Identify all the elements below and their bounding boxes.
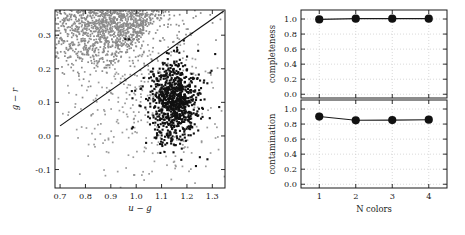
scatter-point-selected xyxy=(199,80,201,82)
scatter-point-background xyxy=(112,4,114,6)
scatter-point-background xyxy=(112,42,114,44)
data-point-marker xyxy=(315,15,323,23)
scatter-point-selected xyxy=(156,132,158,134)
scatter-point-selected xyxy=(188,134,190,136)
scatter-point-background xyxy=(152,3,154,5)
scatter-point-background xyxy=(167,5,169,7)
scatter-point-background xyxy=(147,0,149,1)
scatter-point-background xyxy=(95,6,97,8)
scatter-point-background xyxy=(134,115,136,117)
scatter-point-background xyxy=(133,111,135,113)
scatter-point-selected xyxy=(166,106,168,108)
scatter-point-background xyxy=(74,21,76,23)
scatter-point-background xyxy=(102,8,104,10)
scatter-point-background xyxy=(217,136,219,138)
scatter-point-background xyxy=(109,8,111,10)
scatter-point-background xyxy=(108,41,110,43)
scatter-point-background xyxy=(115,27,117,29)
scatter-point-selected xyxy=(144,107,146,109)
scatter-point-background xyxy=(102,5,104,7)
scatter-point-background xyxy=(27,18,29,20)
scatter-point-selected xyxy=(161,87,163,89)
scatter-point-background xyxy=(143,63,145,65)
y-tick-label: 0.4 xyxy=(284,149,297,159)
scatter-point-background xyxy=(66,5,68,7)
scatter-point-background xyxy=(73,6,75,8)
scatter-point-background xyxy=(129,48,131,50)
scatter-point-background xyxy=(19,26,21,28)
scatter-point-background xyxy=(151,171,153,173)
scatter-point-background xyxy=(235,172,237,174)
scatter-point-background xyxy=(103,61,105,63)
scatter-point-background xyxy=(134,7,136,9)
scatter-point-background xyxy=(120,4,122,6)
scatter-point-background xyxy=(82,97,84,99)
scatter-point-background xyxy=(104,43,106,45)
scatter-point-background xyxy=(143,32,145,34)
scatter-point-background xyxy=(182,20,184,22)
scatter-point-background xyxy=(131,16,133,18)
scatter-point-selected xyxy=(203,98,205,100)
scatter-point-background xyxy=(134,174,136,176)
scatter-point-background xyxy=(98,22,100,24)
contamination-panel: 0.00.20.40.60.81.01234contaminationN col… xyxy=(267,100,447,214)
scatter-point-background xyxy=(127,116,129,118)
scatter-point-background xyxy=(119,25,121,27)
scatter-point-background xyxy=(106,72,108,74)
scatter-point-background xyxy=(147,4,149,6)
scatter-point-selected xyxy=(178,138,180,140)
scatter-point-selected xyxy=(158,96,160,98)
scatter-point-background xyxy=(102,29,104,31)
scatter-point-background xyxy=(91,25,93,27)
scatter-point-background xyxy=(157,152,159,154)
completeness-panel-y-axis-title: completeness xyxy=(267,25,277,83)
scatter-point-background xyxy=(140,17,142,19)
scatter-point-background xyxy=(113,75,115,77)
scatter-point-selected xyxy=(153,88,155,90)
scatter-point-background xyxy=(25,26,27,28)
scatter-point-selected xyxy=(180,96,182,98)
scatter-point-background xyxy=(108,99,110,101)
scatter-point-background xyxy=(51,1,53,3)
scatter-point-background xyxy=(114,17,116,19)
scatter-point-background xyxy=(115,6,117,8)
scatter-point-background xyxy=(130,65,132,67)
scatter-point-background xyxy=(149,7,151,9)
scatter-point-background xyxy=(106,19,108,21)
scatter-point-background xyxy=(98,55,100,57)
scatter-point-background xyxy=(158,141,160,143)
scatter-point-background xyxy=(36,9,38,11)
scatter-point-background xyxy=(135,45,137,47)
scatter-point-background xyxy=(82,14,84,16)
scatter-point-background xyxy=(75,48,77,50)
scatter-point-background xyxy=(44,1,46,3)
scatter-point-background xyxy=(96,7,98,9)
scatter-point-background xyxy=(128,16,130,18)
scatter-point-background xyxy=(141,56,143,58)
scatter-point-background xyxy=(34,35,36,37)
scatter-point-selected xyxy=(185,140,187,142)
scatter-point-background xyxy=(84,5,86,7)
scatter-point-background xyxy=(201,113,203,115)
scatter-point-background xyxy=(37,9,39,11)
scatter-point-background xyxy=(177,37,179,39)
scatter-point-background xyxy=(118,16,120,18)
data-point-marker xyxy=(425,15,433,23)
scatter-point-background xyxy=(221,110,223,112)
scatter-point-background xyxy=(146,15,148,17)
scatter-point-background xyxy=(107,51,109,53)
scatter-point-selected xyxy=(171,120,173,122)
scatter-point-background xyxy=(128,6,130,8)
scatter-point-background xyxy=(84,8,86,10)
y-tick-label: 0.2 xyxy=(284,74,297,84)
scatter-point-background xyxy=(98,82,100,84)
scatter-point-background xyxy=(83,46,85,48)
scatter-point-background xyxy=(137,121,139,123)
scatter-point-background xyxy=(143,27,145,29)
scatter-point-background xyxy=(44,15,46,17)
scatter-point-selected xyxy=(166,65,168,67)
scatter-point-selected xyxy=(185,116,187,118)
scatter-point-selected xyxy=(176,98,178,100)
scatter-point-background xyxy=(110,130,112,132)
scatter-point-background xyxy=(126,113,128,115)
